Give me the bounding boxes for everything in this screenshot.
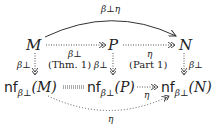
label-m-to-n-top: β⊥η (101, 5, 120, 14)
label-p-to-n: η (147, 50, 152, 59)
annotation-thm1: (Thm. 1) (48, 60, 91, 70)
label-m-to-p: β⊥ (68, 50, 82, 59)
label-p-down: β⊥ (94, 61, 108, 70)
label-n-down: β⊥ (189, 61, 203, 70)
node-m: M (26, 38, 41, 53)
label-nfp-to-nfn: η (144, 91, 149, 100)
arrow-nfm-to-nfn-bottom (48, 96, 169, 111)
node-p: P (108, 38, 118, 53)
annotation-part1: (Part 1) (129, 60, 167, 70)
node-n: N (179, 38, 192, 53)
label-m-down: β⊥ (17, 61, 31, 70)
node-nf-p: nfβ⊥(P) (87, 80, 135, 94)
node-nf-n: nfβ⊥(N) (161, 80, 212, 94)
label-nfm-to-nfn-bottom: η (108, 115, 113, 124)
node-nf-m: nfβ⊥(M) (4, 80, 57, 94)
arrow-m-to-n-top (45, 21, 176, 37)
